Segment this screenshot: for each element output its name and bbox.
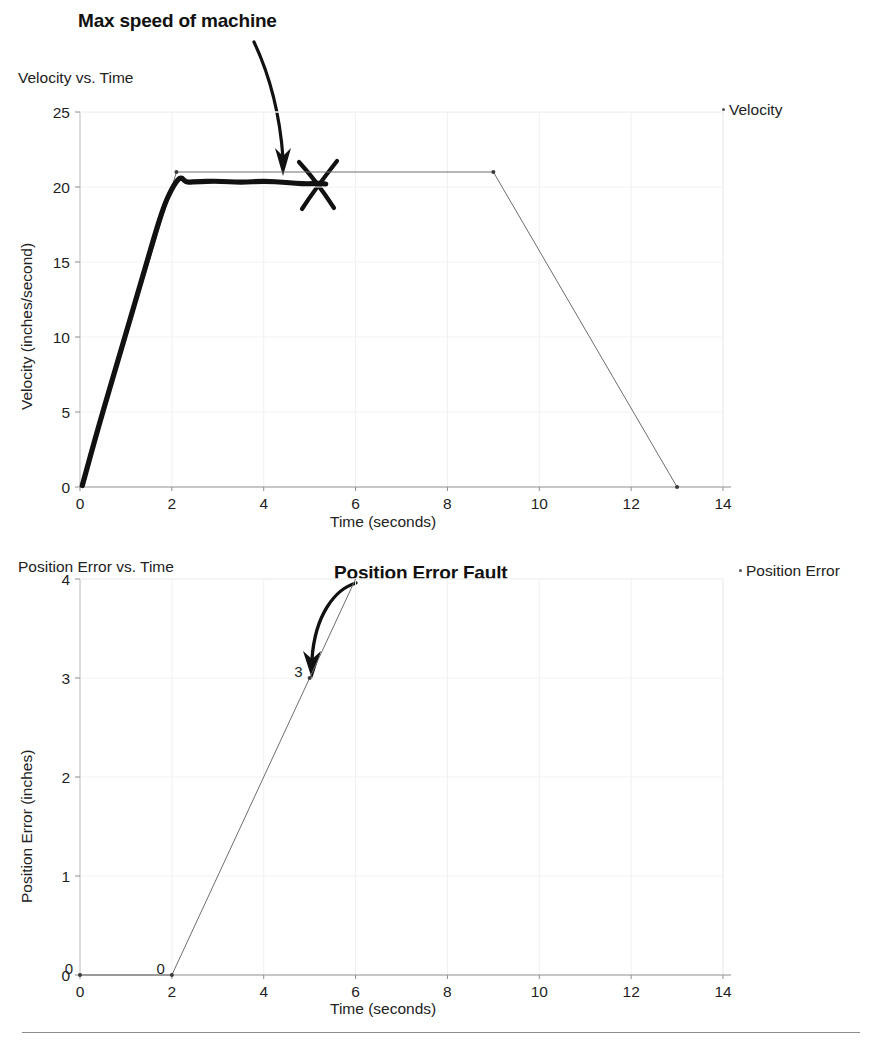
svg-text:12: 12 xyxy=(623,983,640,1000)
svg-text:10: 10 xyxy=(531,495,549,512)
svg-text:0: 0 xyxy=(65,960,73,977)
svg-text:8: 8 xyxy=(443,983,452,1000)
svg-text:10: 10 xyxy=(531,983,549,1000)
svg-text:6: 6 xyxy=(351,983,360,1000)
svg-text:1: 1 xyxy=(61,868,70,885)
svg-text:14: 14 xyxy=(714,495,732,512)
svg-text:14: 14 xyxy=(714,983,732,1000)
svg-text:6: 6 xyxy=(351,495,360,512)
chart-velocity-vs-time: Velocity vs. Time Velocity (inches/secon… xyxy=(0,55,875,535)
svg-text:20: 20 xyxy=(53,179,71,196)
svg-text:0: 0 xyxy=(76,983,85,1000)
svg-text:2: 2 xyxy=(168,495,177,512)
svg-text:2: 2 xyxy=(168,983,177,1000)
svg-text:10: 10 xyxy=(53,329,71,346)
svg-text:3: 3 xyxy=(294,663,302,680)
svg-text:8: 8 xyxy=(443,495,452,512)
svg-text:12: 12 xyxy=(623,495,640,512)
chart-poserror-plot-area: 0123402468101214003 xyxy=(0,548,875,1028)
footer-divider-rule xyxy=(22,1032,860,1033)
svg-text:2: 2 xyxy=(61,769,70,786)
svg-text:15: 15 xyxy=(53,254,70,271)
annotation-max-speed-label: Max speed of machine xyxy=(78,10,277,32)
chart-position-error-vs-time: Position Error vs. Time Position Error (… xyxy=(0,548,875,1028)
svg-text:0: 0 xyxy=(61,479,70,496)
svg-text:4: 4 xyxy=(259,495,268,512)
chart-velocity-plot-area: 051015202502468101214 xyxy=(0,55,875,535)
document-page: Max speed of machine Velocity vs. Time V… xyxy=(0,0,875,1047)
svg-text:25: 25 xyxy=(53,104,70,121)
svg-text:0: 0 xyxy=(76,495,85,512)
svg-text:4: 4 xyxy=(61,571,70,588)
svg-text:0: 0 xyxy=(157,960,165,977)
svg-text:3: 3 xyxy=(61,670,70,687)
svg-text:4: 4 xyxy=(259,983,268,1000)
svg-text:5: 5 xyxy=(61,404,70,421)
